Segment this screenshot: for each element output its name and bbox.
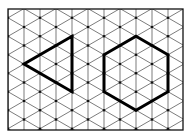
grid-node-dot [87, 81, 90, 84]
grid-line-diagonal-down [8, 0, 183, 100]
grid-node-dot [119, 26, 122, 29]
grid-node-dot [103, 109, 106, 112]
grid-node-dot [55, 118, 58, 121]
grid-node-dot [71, 17, 74, 20]
grid-line-diagonal-up [8, 28, 183, 129]
grid-node-dot [23, 44, 26, 47]
grid-line-diagonal-up [8, 0, 183, 36]
grid-node-dot [39, 35, 42, 38]
grid-node-dot [39, 17, 42, 20]
grid-node-dot [87, 26, 90, 29]
grid-node-dot [55, 63, 58, 66]
grid-node-dot [151, 81, 154, 84]
grid-line-diagonal-up [8, 65, 183, 139]
grid-node-dot [39, 109, 42, 112]
grid-line-diagonal-down [8, 110, 183, 139]
grid-node-dot [103, 17, 106, 20]
grid-node-dot [135, 17, 138, 20]
grid-node-dot [87, 118, 90, 121]
triangle-shape [24, 36, 72, 91]
grid-node-dot [167, 17, 170, 20]
grid-node-dot [23, 100, 26, 103]
grid-node-dot [55, 26, 58, 29]
grid-node-dot [151, 26, 154, 29]
grid-node-dot [87, 100, 90, 103]
grid-node-dot [135, 72, 138, 75]
grid-line-diagonal-down [8, 0, 183, 8]
grid-node-dot [39, 90, 42, 93]
grid-node-dot [87, 44, 90, 47]
grid-node-dot [151, 63, 154, 66]
grid-node-dot [151, 118, 154, 121]
grid-node-dot [103, 35, 106, 38]
grid-line-diagonal-down [8, 36, 183, 137]
shapes [24, 36, 168, 110]
grid-node-dot [119, 118, 122, 121]
grid-node-dot [71, 109, 74, 112]
isometric-grid-diagram [0, 0, 192, 139]
grid-node-dot [23, 118, 26, 121]
grid-node-dot [55, 100, 58, 103]
grid-node-dot [87, 63, 90, 66]
grid-node-dot [167, 109, 170, 112]
grid-node-dot [135, 90, 138, 93]
grid-node-dot [23, 26, 26, 29]
grid-node-dot [119, 63, 122, 66]
grid-node-dot [119, 81, 122, 84]
grid-node-dot [135, 53, 138, 56]
grid-node-dot [23, 81, 26, 84]
grid-node-dot [167, 35, 170, 38]
grid-line-diagonal-down [8, 73, 183, 139]
